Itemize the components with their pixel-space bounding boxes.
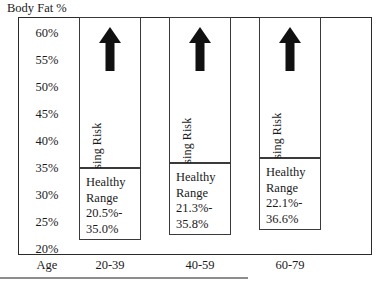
- y-tick-45: 45%: [18, 108, 76, 121]
- healthy-range-text-40-59: Healthy Range 21.3%- 35.8%: [176, 170, 227, 232]
- up-arrow-icon: [278, 26, 302, 72]
- x-tick-60-79: 60-79: [259, 258, 321, 272]
- y-tick-35: 35%: [18, 162, 76, 175]
- y-tick-50: 50%: [18, 81, 76, 94]
- y-axis-title: Body Fat %: [7, 1, 67, 15]
- y-tick-40: 40%: [18, 135, 76, 148]
- healthy-range-box-40-59: Healthy Range 21.3%- 35.8%: [169, 163, 231, 235]
- x-axis-title: Age: [18, 258, 76, 272]
- healthy-title-line2: Range: [266, 181, 317, 197]
- healthy-title-line1: Healthy: [176, 170, 227, 186]
- healthy-value-line2: 35.8%: [176, 217, 227, 233]
- healthy-value-line2: 35.0%: [86, 222, 137, 238]
- column-60-79: Increasing Risk Healthy Range 22.1%- 36.…: [259, 17, 321, 255]
- up-arrow-icon: [98, 26, 122, 72]
- healthy-title-line2: Range: [176, 186, 227, 202]
- healthy-title-line1: Healthy: [266, 165, 317, 181]
- healthy-value-line1: 21.3%-: [176, 201, 227, 217]
- increasing-risk-box-20-39: Increasing Risk: [79, 17, 141, 168]
- increasing-risk-box-40-59: Increasing Risk: [169, 17, 231, 163]
- x-tick-20-39: 20-39: [79, 258, 141, 272]
- up-arrow-icon: [188, 26, 212, 72]
- healthy-value-line1: 20.5%-: [86, 206, 137, 222]
- healthy-value-line1: 22.1%-: [266, 196, 317, 212]
- healthy-value-line2: 36.6%: [266, 212, 317, 228]
- healthy-range-text-20-39: Healthy Range 20.5%- 35.0%: [86, 175, 137, 237]
- increasing-risk-box-60-79: Increasing Risk: [259, 17, 321, 158]
- y-tick-55: 55%: [18, 54, 76, 67]
- y-tick-60: 60%: [18, 27, 76, 40]
- y-axis-ticks: 60% 55% 50% 45% 40% 35% 30% 25% 20%: [18, 17, 78, 255]
- y-tick-20: 20%: [18, 243, 76, 256]
- healthy-range-box-60-79: Healthy Range 22.1%- 36.6%: [259, 158, 321, 230]
- column-20-39: Increasing Risk Healthy Range 20.5%- 35.…: [79, 17, 141, 255]
- x-tick-40-59: 40-59: [169, 258, 231, 272]
- body-fat-chart: Body Fat % 60% 55% 50% 45% 40% 35% 30% 2…: [0, 0, 385, 284]
- y-tick-30: 30%: [18, 189, 76, 202]
- healthy-title-line1: Healthy: [86, 175, 137, 191]
- healthy-title-line2: Range: [86, 191, 137, 207]
- y-tick-25: 25%: [18, 216, 76, 229]
- healthy-range-text-60-79: Healthy Range 22.1%- 36.6%: [266, 165, 317, 227]
- footer-divider: [0, 277, 248, 279]
- column-40-59: Increasing Risk Healthy Range 21.3%- 35.…: [169, 17, 231, 255]
- healthy-range-box-20-39: Healthy Range 20.5%- 35.0%: [79, 168, 141, 240]
